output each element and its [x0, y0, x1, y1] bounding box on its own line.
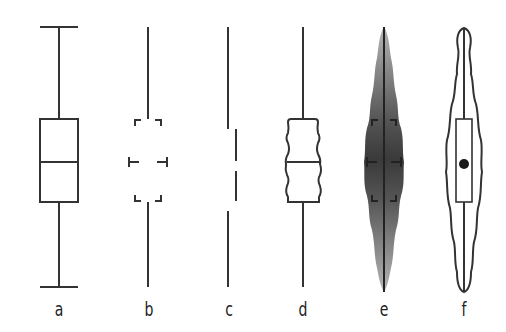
boxplot-b — [129, 27, 167, 287]
label-e: e — [372, 298, 397, 320]
label-b: b — [137, 298, 162, 320]
boxplot-e — [364, 27, 404, 292]
boxplot-d — [286, 27, 321, 287]
boxplot-variants-figure — [0, 0, 506, 332]
label-f: f — [452, 298, 477, 320]
label-d: d — [291, 298, 316, 320]
median-dot — [459, 159, 469, 169]
label-c: c — [217, 298, 242, 320]
boxplot-a — [40, 27, 78, 287]
boxplot-c — [228, 27, 236, 287]
label-a: a — [47, 298, 72, 320]
boxplot-f — [446, 28, 482, 292]
